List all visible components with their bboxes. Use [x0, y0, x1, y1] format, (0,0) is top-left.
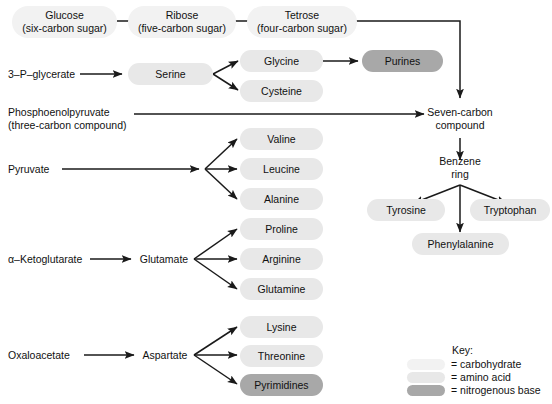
node-oxaloacetate-label: Oxaloacetate: [8, 349, 70, 361]
key-swatch-nitrogenous-base-icon: [407, 385, 445, 396]
node-glutamate: Glutamate: [134, 250, 194, 268]
arrow-aspartate-to-pyrimidines: [194, 355, 237, 384]
node-phosphoenolpyruvate: Phosphoenolpyruvate (three-carbon compou…: [8, 104, 133, 134]
node-ribose[interactable]: Ribose (five-carbon sugar): [128, 6, 236, 38]
node-valine[interactable]: Valine: [240, 128, 323, 150]
node-tryptophan[interactable]: Tryptophan: [470, 199, 550, 221]
arrow-glutamate-to-glutamine: [194, 259, 237, 289]
node-tyrosine-label: Tyrosine: [386, 204, 426, 216]
arrow-serine-to-glycine: [213, 61, 238, 74]
node-oxaloacetate: Oxaloacetate: [8, 346, 84, 364]
node-purines-label: Purines: [385, 55, 421, 67]
node-tryptophan-label: Tryptophan: [484, 204, 537, 216]
node-tetrose[interactable]: Tetrose (four-carbon sugar): [247, 6, 357, 38]
node-leucine-label: Leucine: [263, 163, 300, 175]
node-pyrimidines-label: Pyrimidines: [254, 379, 308, 391]
arrow-glutamate-to-proline: [194, 229, 237, 259]
node-alanine-label: Alanine: [264, 193, 299, 205]
arrow-serine-to-cysteine: [213, 74, 238, 90]
node-lysine-label: Lysine: [267, 321, 297, 333]
node-glucose[interactable]: Glucose (six-carbon sugar): [12, 6, 117, 38]
arrow-aspartate-to-lysine: [194, 327, 237, 355]
key-label-carbohydrate: = carbohydrate: [451, 358, 521, 370]
node-leucine[interactable]: Leucine: [240, 158, 323, 180]
node-ribose-line1: Ribose: [166, 9, 199, 22]
node-benzene-ring-line1: Benzene: [439, 155, 480, 168]
node-phosphoenolpyruvate-line1: Phosphoenolpyruvate: [8, 106, 110, 119]
node-tetrose-line2: (four-carbon sugar): [257, 22, 347, 35]
node-phosphoenolpyruvate-line2: (three-carbon compound): [8, 119, 126, 132]
node-3-p-glycerate-label: 3–P–glycerate: [8, 68, 75, 80]
node-3-p-glycerate: 3–P–glycerate: [8, 65, 80, 83]
node-threonine[interactable]: Threonine: [240, 345, 323, 367]
node-seven-carbon-compound-line2: compound: [435, 119, 484, 132]
node-glucose-line1: Glucose: [45, 9, 84, 22]
node-arginine-label: Arginine: [262, 253, 301, 265]
key-swatch-amino-acid-icon: [407, 372, 445, 383]
node-serine-label: Serine: [155, 68, 185, 80]
node-ribose-line2: (five-carbon sugar): [138, 22, 226, 35]
node-proline[interactable]: Proline: [240, 218, 323, 240]
node-phenylalanine-label: Phenylalanine: [428, 238, 494, 250]
node-aspartate-label: Aspartate: [143, 349, 188, 361]
node-glycine-label: Glycine: [264, 55, 299, 67]
node-lysine[interactable]: Lysine: [240, 316, 323, 338]
node-glutamine[interactable]: Glutamine: [240, 278, 323, 300]
node-arginine[interactable]: Arginine: [240, 248, 323, 270]
node-pyruvate: Pyruvate: [8, 160, 62, 178]
node-glucose-line2: (six-carbon sugar): [22, 22, 107, 35]
arrow-pyruvate-to-valine: [205, 139, 237, 169]
node-cysteine[interactable]: Cysteine: [240, 80, 323, 102]
node-purines[interactable]: Purines: [362, 50, 443, 72]
key-row-amino-acid: = amino acid: [407, 371, 511, 383]
node-aspartate: Aspartate: [136, 346, 194, 364]
node-proline-label: Proline: [265, 223, 298, 235]
node-benzene-ring-line2: ring: [451, 168, 469, 181]
node-glycine[interactable]: Glycine: [240, 50, 323, 72]
node-pyruvate-label: Pyruvate: [8, 163, 49, 175]
node-seven-carbon-compound-line1: Seven-carbon: [427, 106, 492, 119]
node-alanine[interactable]: Alanine: [240, 188, 323, 210]
node-glutamine-label: Glutamine: [258, 283, 306, 295]
node-benzene-ring: Benzene ring: [415, 152, 505, 184]
key-label-amino-acid: = amino acid: [451, 371, 511, 383]
key-label-nitrogenous-base: = nitrogenous base: [451, 384, 541, 396]
key-row-nitrogenous-base: = nitrogenous base: [407, 384, 541, 396]
node-alpha-ketoglutarate-label: α–Ketoglutarate: [8, 253, 82, 265]
key-swatch-carbohydrate-icon: [407, 359, 445, 370]
key-title: Key:: [452, 344, 473, 356]
node-tetrose-line1: Tetrose: [285, 9, 319, 22]
pathway-diagram: Glucose (six-carbon sugar) Ribose (five-…: [0, 0, 552, 404]
node-seven-carbon-compound: Seven-carbon compound: [410, 103, 510, 135]
node-cysteine-label: Cysteine: [261, 85, 302, 97]
node-glutamate-label: Glutamate: [140, 253, 188, 265]
node-threonine-label: Threonine: [258, 350, 305, 362]
node-phenylalanine[interactable]: Phenylalanine: [412, 233, 509, 255]
key-row-carbohydrate: = carbohydrate: [407, 358, 521, 370]
node-alpha-ketoglutarate: α–Ketoglutarate: [8, 250, 90, 268]
node-tyrosine[interactable]: Tyrosine: [367, 199, 445, 221]
node-pyrimidines[interactable]: Pyrimidines: [240, 374, 323, 396]
node-serine[interactable]: Serine: [128, 63, 213, 85]
arrow-pyruvate-to-alanine: [205, 169, 237, 199]
node-valine-label: Valine: [267, 133, 295, 145]
